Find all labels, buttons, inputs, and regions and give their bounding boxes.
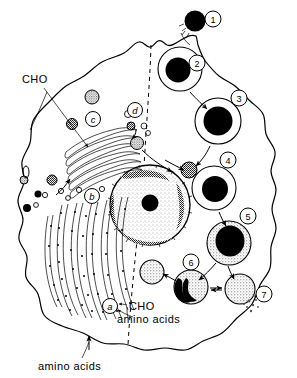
- cho-bottom-label: CHO: [129, 300, 155, 312]
- nucleus: [108, 165, 192, 247]
- callout-stage-4: 4: [220, 152, 236, 168]
- callout-stage-5: 5: [240, 208, 256, 224]
- letter-a-text: a: [107, 301, 112, 312]
- arrow-3-to-4: [196, 146, 210, 166]
- stage-6-residual-body: [174, 270, 208, 304]
- stage-6-text: 6: [188, 258, 193, 268]
- amino-acids-mid-label: amino acids: [117, 313, 180, 325]
- letter-c-text: c: [91, 114, 96, 125]
- letter-d-text: d: [132, 105, 138, 116]
- callout-stage-1: 1: [205, 11, 221, 27]
- callout-stage-7: 7: [256, 286, 272, 302]
- callout-stage-6: 6: [183, 254, 199, 270]
- stage-1-text: 1: [210, 15, 215, 25]
- callout-letter-b: b: [85, 189, 100, 204]
- stage-1-particle: [179, 11, 206, 46]
- stage-3-text: 3: [236, 94, 241, 104]
- callout-letter-a: a: [103, 299, 118, 314]
- residual-vesicle: [140, 260, 164, 284]
- stage-4-text: 4: [225, 156, 230, 166]
- letter-b-text: b: [89, 191, 94, 202]
- stage-7-text: 7: [261, 290, 266, 300]
- callout-letter-d: d: [128, 103, 143, 118]
- cho-top-label: CHO: [22, 73, 48, 85]
- amino-acids-bottom-label: amino acids: [38, 360, 101, 372]
- callout-letter-c: c: [86, 112, 101, 127]
- amino-acids-bottom-group: amino acids: [38, 336, 101, 372]
- cho-top-label-group: CHO: [22, 73, 88, 147]
- stage-2-text: 2: [194, 59, 199, 69]
- cell-diagram-svg: CHO CHO amino acids amino acids a: [0, 0, 297, 378]
- bottom-label-group: CHO amino acids: [117, 300, 180, 325]
- stage-7-exocytosis: [225, 274, 259, 312]
- callout-stage-2: 2: [189, 55, 205, 71]
- cell-diagram-figure: CHO CHO amino acids amino acids a: [0, 0, 297, 378]
- callout-stage-3: 3: [231, 90, 247, 106]
- arrow-2-to-3: [190, 92, 207, 109]
- stage-5-phagolysosome: [207, 221, 251, 265]
- stage-5-text: 5: [245, 212, 250, 222]
- nucleolus: [142, 195, 159, 212]
